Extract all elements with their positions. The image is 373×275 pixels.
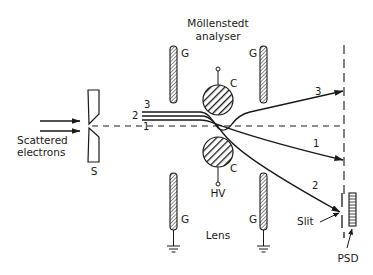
source-label-line-1: Scattered	[17, 134, 68, 146]
psd-label: PSD	[337, 252, 358, 264]
c-label: C	[230, 77, 237, 89]
mollenstedt-analyser-diagram: Möllenstedt analyser Scattered electrons…	[0, 0, 373, 275]
source-label-line-2: electrons	[17, 146, 65, 158]
electrode-c-upper: C	[203, 67, 237, 115]
analyser-title: Möllenstedt analyser	[187, 17, 248, 42]
incoming-electrons: Scattered electrons	[17, 121, 80, 158]
hv-label: HV	[210, 187, 226, 199]
title-line-1: Möllenstedt	[187, 17, 248, 29]
electrode-c-lower: C HV	[203, 137, 237, 199]
g-label: G	[249, 213, 257, 225]
beam-2-label-start: 2	[132, 110, 138, 121]
terminal-icon	[216, 67, 220, 71]
psd-detector	[349, 193, 356, 226]
electrode-g-upper-right: G	[249, 46, 267, 103]
ground-icon	[257, 230, 270, 252]
terminal-icon	[216, 182, 220, 186]
title-line-2: analyser	[196, 30, 242, 42]
beam-2-label-end: 2	[312, 180, 318, 191]
beam-3-label-start: 3	[144, 99, 150, 110]
g-label: G	[181, 213, 189, 225]
g-label: G	[249, 47, 257, 59]
ground-icon	[167, 230, 180, 252]
electrode-g-lower-left: G	[167, 173, 189, 252]
exit-slit	[342, 193, 344, 238]
beam-3-label-end: 3	[315, 86, 321, 97]
electrode-g-upper-left: G	[170, 46, 189, 103]
slit-label: Slit	[297, 215, 314, 227]
slit-pointer-arrow-icon	[320, 213, 339, 222]
beam-1-label-end: 1	[313, 138, 319, 149]
lens-label: Lens	[206, 229, 230, 241]
slit-lower-plate	[88, 128, 99, 162]
psd-pointer-arrow-icon	[347, 229, 352, 248]
beam-1-label-start: 1	[143, 121, 149, 132]
slit-upper-plate	[88, 90, 99, 124]
slit-s-label: S	[91, 165, 98, 177]
electrode-g-lower-right: G	[249, 173, 270, 252]
c-label: C	[230, 162, 237, 174]
g-label: G	[181, 47, 189, 59]
